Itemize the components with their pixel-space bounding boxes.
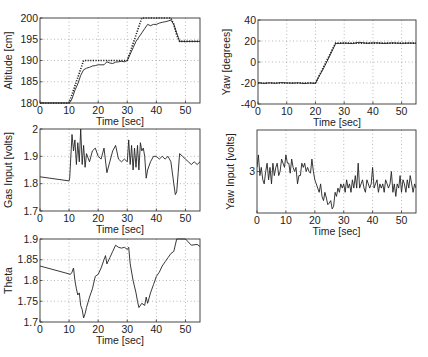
y-tick-label: 195 <box>20 33 38 45</box>
x-tick-label: 40 <box>151 104 163 116</box>
y-axis-label: Yaw Input [volts] <box>224 133 236 209</box>
y-tick-label: 2 <box>32 123 38 135</box>
axes-frame <box>40 129 200 211</box>
x-tick-label: 50 <box>180 323 192 335</box>
y-tick-label: 40 <box>244 14 256 26</box>
gas-line <box>40 129 200 195</box>
y-tick-label: 1.75 <box>18 295 39 307</box>
y-tick-label: 1.85 <box>18 253 39 265</box>
x-tick-label: 40 <box>367 105 379 117</box>
x-tick-label: 50 <box>180 212 192 224</box>
grid <box>40 239 200 322</box>
grid <box>257 130 416 213</box>
chart-canvas: 01020304050180185190195200Time [sec]Alti… <box>0 0 428 357</box>
x-tick-label: 50 <box>396 214 408 226</box>
x-tick-label: 40 <box>151 212 163 224</box>
axes-frame <box>257 130 416 213</box>
theta-subplot: 010203040501.71.751.81.851.9Time [sec]Th… <box>2 233 200 347</box>
yaw-input-subplot: 010203040503Time [sec]Yaw Input [volts] <box>224 130 416 237</box>
y-tick-label: 20 <box>244 35 256 47</box>
x-tick-label: 10 <box>63 212 75 224</box>
x-axis-label: Time [sec] <box>96 223 144 235</box>
x-tick-label: 10 <box>63 104 75 116</box>
axes-frame <box>40 239 200 322</box>
x-tick-label: 10 <box>63 323 75 335</box>
y-tick-label: 1.7 <box>23 316 38 328</box>
y-axis-label: Yaw [degrees] <box>220 29 232 95</box>
theta-line <box>40 239 200 318</box>
x-tick-label: 0 <box>254 214 260 226</box>
yaw-subplot: 01020304050-40-2002040Time [sec]Yaw [deg… <box>220 14 416 129</box>
reference-line <box>258 43 416 83</box>
y-tick-label: 185 <box>20 75 38 87</box>
y-tick-label: -40 <box>241 98 256 110</box>
altitude-subplot: 01020304050180185190195200Time [sec]Alti… <box>2 12 200 128</box>
x-axis-label: Time [sec] <box>312 225 360 237</box>
measured-line <box>258 42 416 83</box>
x-tick-label: 50 <box>396 105 408 117</box>
measured-line <box>40 20 200 103</box>
y-tick-label: 1.9 <box>23 233 38 245</box>
y-tick-label: 190 <box>20 54 38 66</box>
gas-input-subplot: 010203040501.71.81.92Time [sec]Gas Input… <box>2 123 200 236</box>
y-tick-label: 1.7 <box>23 205 38 217</box>
y-axis-label: Altitude [cm] <box>2 32 14 90</box>
x-axis-label: Time [sec] <box>96 334 144 346</box>
y-tick-label: -20 <box>241 77 256 89</box>
x-tick-label: 50 <box>180 104 192 116</box>
x-tick-label: 10 <box>280 214 292 226</box>
y-tick-label: 1.9 <box>23 150 38 162</box>
y-tick-label: 0 <box>250 56 256 68</box>
y-tick-label: 200 <box>20 12 38 24</box>
x-axis-label: Time [sec] <box>96 115 144 127</box>
x-tick-label: 40 <box>367 214 379 226</box>
axes-frame <box>258 20 416 104</box>
x-tick-label: 40 <box>151 323 163 335</box>
x-tick-label: 10 <box>281 105 293 117</box>
y-tick-label: 1.8 <box>23 177 38 189</box>
grid <box>40 129 200 211</box>
y-tick-label: 180 <box>20 97 38 109</box>
y-axis-label: Theta <box>2 267 14 294</box>
y-tick-label: 3 <box>249 165 255 177</box>
x-axis-label: Time [sec] <box>313 116 361 128</box>
y-tick-label: 1.8 <box>23 274 38 286</box>
grid <box>258 20 416 104</box>
y-axis-label: Gas Input [volts] <box>2 132 14 208</box>
yaw-input-line <box>257 155 416 209</box>
